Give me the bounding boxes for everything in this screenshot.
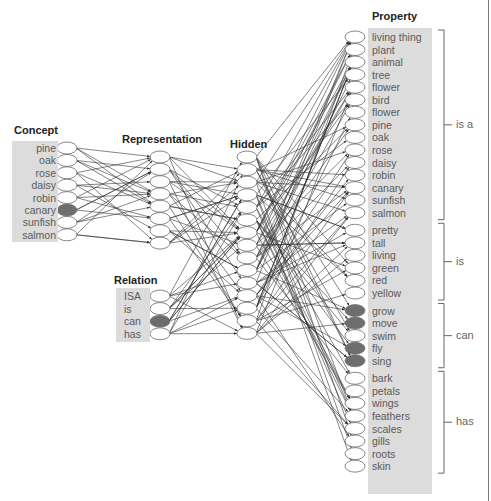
- property-node: [345, 81, 365, 93]
- node-label: living thing: [372, 31, 422, 43]
- node-label: salmon: [372, 207, 406, 219]
- connection-line: [256, 333, 347, 424]
- representation-node: [150, 188, 170, 200]
- representation-node: [150, 176, 170, 188]
- node-label: grow: [372, 305, 395, 317]
- connection-line: [76, 148, 150, 156]
- node-label: robin: [372, 169, 395, 181]
- connection-line: [256, 182, 348, 276]
- concept-title: Concept: [14, 124, 58, 136]
- hidden-node: [237, 151, 257, 163]
- group-label: is a: [456, 118, 473, 130]
- connection-line: [76, 196, 150, 223]
- concept-node: [57, 216, 77, 228]
- property-node: [345, 397, 365, 409]
- relation-node: [150, 328, 170, 340]
- representation-node: [150, 200, 170, 212]
- connection-line: [256, 157, 351, 435]
- group-bracket: [438, 223, 452, 300]
- connection-line: [169, 212, 240, 309]
- property-node: [345, 144, 365, 156]
- hidden-node: [237, 290, 257, 302]
- connection-line: [256, 67, 350, 257]
- node-label: pine: [12, 142, 56, 154]
- property-node: [345, 460, 365, 472]
- property-node: [345, 31, 365, 43]
- property-node: [345, 410, 365, 422]
- property-node: [345, 330, 365, 342]
- concept-node: [57, 142, 77, 154]
- node-label: tree: [372, 69, 390, 81]
- property-title: Property: [372, 10, 417, 22]
- node-label: sunfish: [12, 216, 56, 228]
- hidden-node: [237, 176, 257, 188]
- property-node: [345, 44, 365, 56]
- property-node: [345, 237, 365, 249]
- connection-line: [169, 175, 242, 334]
- node-label: has: [124, 328, 141, 340]
- property-node: [345, 262, 365, 274]
- property-node: [345, 69, 365, 81]
- node-label: animal: [372, 56, 403, 68]
- node-label: can: [124, 315, 141, 327]
- relation-node: [150, 315, 170, 327]
- node-label: ISA: [124, 290, 141, 302]
- connection-line: [76, 173, 152, 240]
- connection-line: [256, 324, 345, 334]
- concept-node: [57, 167, 77, 179]
- node-label: bird: [372, 94, 390, 106]
- connection-line: [256, 42, 350, 232]
- node-label: daisy: [372, 157, 397, 169]
- group-label: can: [456, 329, 474, 341]
- node-label: gills: [372, 435, 390, 447]
- hidden-node: [237, 164, 257, 176]
- node-label: canary: [372, 182, 404, 194]
- node-label: living: [372, 249, 396, 261]
- connection-line: [256, 104, 349, 232]
- node-label: canary: [12, 204, 56, 216]
- connection-line: [256, 195, 351, 411]
- connection-line: [256, 42, 350, 207]
- group-bracket: [438, 304, 452, 368]
- node-label: swim: [372, 330, 396, 342]
- node-label: pine: [372, 119, 392, 131]
- node-label: flower: [372, 106, 400, 118]
- connection-line: [76, 194, 150, 197]
- node-label: pretty: [372, 224, 398, 236]
- property-node: [345, 169, 365, 181]
- relation-node: [150, 290, 170, 302]
- concept-node: [57, 154, 77, 166]
- hidden-node: [237, 277, 257, 289]
- node-label: yellow: [372, 287, 401, 299]
- property-node: [345, 423, 365, 435]
- property-node: [345, 106, 365, 118]
- node-label: sunfish: [372, 194, 405, 206]
- representation-node: [150, 225, 170, 237]
- connection-line: [256, 55, 351, 321]
- property-node: [345, 224, 365, 236]
- property-node: [345, 342, 365, 354]
- network-diagram: Concept pineoakrosedaisyrobincanarysunfi…: [0, 0, 491, 501]
- node-label: roots: [372, 448, 395, 460]
- node-label: bark: [372, 372, 392, 384]
- connection-line: [169, 198, 238, 243]
- node-label: robin: [12, 192, 56, 204]
- node-label: rose: [372, 144, 392, 156]
- node-label: feathers: [372, 410, 410, 422]
- group-bracket: [438, 371, 452, 473]
- hidden-node: [237, 252, 257, 264]
- node-label: is: [124, 303, 132, 315]
- property-node: [345, 56, 365, 68]
- node-label: wings: [372, 397, 399, 409]
- property-node: [345, 274, 365, 286]
- property-node: [345, 448, 365, 460]
- node-label: green: [372, 262, 399, 274]
- node-label: daisy: [12, 179, 56, 191]
- hidden-node: [237, 214, 257, 226]
- node-label: plant: [372, 44, 395, 56]
- property-node: [345, 372, 365, 384]
- concept-node: [57, 204, 77, 216]
- hidden-title: Hidden: [230, 138, 267, 150]
- property-node: [345, 119, 365, 131]
- connection-line: [169, 157, 239, 229]
